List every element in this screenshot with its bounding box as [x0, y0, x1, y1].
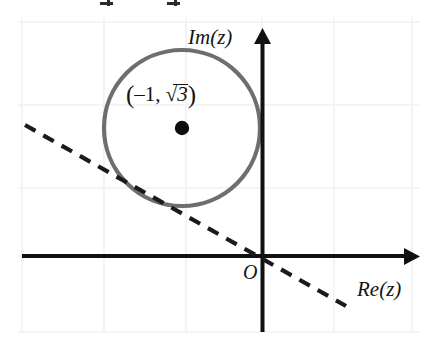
centre-label-close-paren: )	[188, 81, 196, 108]
real-axis-label: Re(z)	[357, 279, 401, 300]
origin-label: O	[243, 262, 257, 282]
cropped-glyph-fragment-left	[100, 0, 113, 6]
centre-point-marker	[175, 121, 189, 135]
centre-label-radical: √3	[166, 83, 188, 105]
centre-point-label: (–1, √3)	[126, 82, 196, 107]
real-axis	[22, 248, 420, 265]
centre-label-real-part: –1,	[134, 82, 166, 106]
radicand: 3	[177, 82, 188, 106]
cropped-glyph-fragment-right	[167, 0, 180, 6]
imaginary-axis	[254, 28, 271, 332]
imaginary-axis-label: Im(z)	[188, 27, 232, 48]
radical-overbar	[173, 84, 188, 85]
complex-plane-figure: Im(z) Re(z) O (–1, √3)	[0, 0, 430, 344]
radical-sign: √	[166, 82, 178, 106]
imaginary-axis-arrowhead	[254, 28, 271, 44]
